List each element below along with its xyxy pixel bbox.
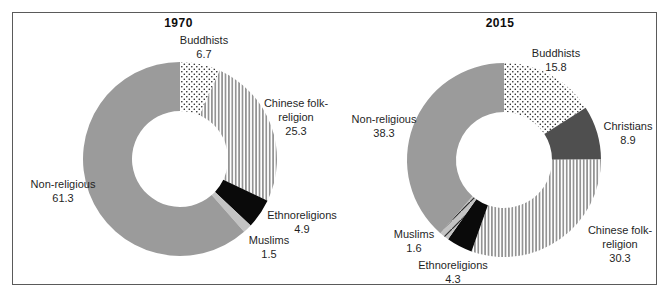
label-ethnoreligions-2015: Ethnoreligions4.3 [418, 258, 488, 285]
label-line: Non-religious [31, 177, 96, 191]
label-line: 38.3 [352, 126, 417, 140]
label-line: Ethnoreligions [267, 208, 337, 222]
label-line: 25.3 [264, 124, 328, 138]
label-line: 8.9 [604, 133, 653, 147]
label-line: Ethnoreligions [418, 258, 488, 272]
label-chinese-folk-religion-2015: Chinese folk-religion30.3 [588, 223, 652, 265]
label-line: Non-religious [352, 112, 417, 126]
label-christians-2015: Christians8.9 [604, 119, 653, 147]
label-line: 1.5 [249, 247, 289, 261]
slice-chinese-folk-religion-2015 [471, 159, 601, 257]
panel-2015: 2015 Buddhists15.8Christians8.9Chinese f… [344, 12, 657, 285]
label-non-religious-2015: Non-religious38.3 [352, 112, 417, 140]
label-line: 6.7 [180, 47, 228, 61]
label-line: Muslims [394, 227, 434, 241]
label-line: 1.6 [394, 241, 434, 255]
label-non-religious-1970: Non-religious61.3 [31, 177, 96, 205]
label-line: Chinese folk- [588, 223, 652, 237]
label-line: Buddhists [180, 33, 228, 47]
label-line: 4.3 [418, 272, 488, 285]
label-line: 30.3 [588, 251, 652, 265]
chart-title-2015: 2015 [344, 16, 656, 30]
label-line: Christians [604, 119, 653, 133]
label-buddhists-2015: Buddhists15.8 [532, 46, 580, 74]
chart-title-1970: 1970 [13, 16, 344, 30]
label-chinese-folk-religion-1970: Chinese folk-religion25.3 [264, 96, 328, 138]
panel-1970: 1970 Buddhists6.7Chinese folk-religion25… [12, 12, 345, 285]
label-line: 15.8 [532, 60, 580, 74]
donut-chart-1970 [13, 13, 344, 284]
label-line: 61.3 [31, 191, 96, 205]
label-ethnoreligions-1970: Ethnoreligions4.9 [267, 208, 337, 236]
religion-share-donut-figure: 1970 Buddhists6.7Chinese folk-religion25… [0, 0, 671, 297]
label-line: religion [264, 110, 328, 124]
label-buddhists-1970: Buddhists6.7 [180, 33, 228, 61]
label-line: religion [588, 237, 652, 251]
label-muslims-2015: Muslims1.6 [394, 227, 434, 255]
label-line: Buddhists [532, 46, 580, 60]
label-line: Muslims [249, 233, 289, 247]
label-muslims-1970: Muslims1.5 [249, 233, 289, 261]
label-line: Chinese folk- [264, 96, 328, 110]
